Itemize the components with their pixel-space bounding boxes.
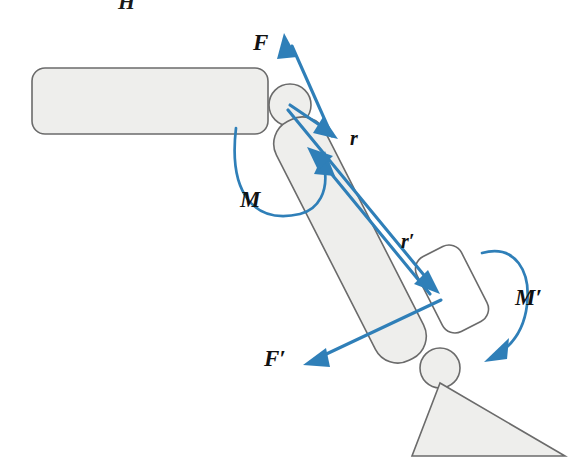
label-moment-M: M — [239, 187, 262, 212]
label-radius-r-prime: r′ — [401, 230, 414, 252]
horizontal-link — [32, 68, 268, 134]
label-moment-M-prime: M′ — [514, 285, 542, 310]
figure-canvas: F r M r′ M′ F′ H — [0, 0, 582, 468]
mechanics-figure: F r M r′ M′ F′ H — [0, 0, 582, 468]
label-force-F: F — [252, 30, 268, 55]
ground-support-triangle — [412, 383, 565, 456]
label-radius-r: r — [350, 127, 358, 149]
label-cropped-top: H — [117, 0, 136, 14]
lower-pivot-joint — [420, 348, 460, 388]
label-force-F-prime: F′ — [263, 346, 286, 371]
